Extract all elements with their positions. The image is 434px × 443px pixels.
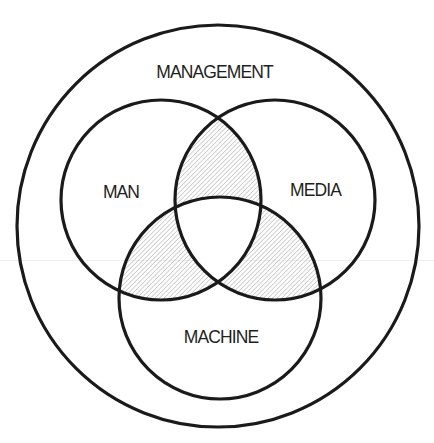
label-man: MAN bbox=[103, 182, 139, 202]
venn-diagram: MANAGEMENT MAN MEDIA MACHINE bbox=[0, 0, 434, 443]
label-media: MEDIA bbox=[290, 180, 342, 200]
label-machine: MACHINE bbox=[184, 327, 259, 347]
label-management: MANAGEMENT bbox=[156, 62, 274, 82]
